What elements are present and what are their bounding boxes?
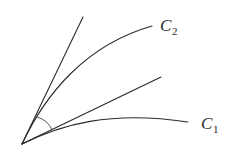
label-c1: C 1	[201, 114, 219, 135]
label-c2-main: C	[160, 16, 172, 35]
curve-c2	[22, 26, 152, 144]
label-c2: C 2	[160, 16, 178, 37]
curve-c1	[22, 118, 188, 144]
label-c2-subscript: 2	[172, 25, 178, 37]
label-c1-subscript: 1	[213, 123, 219, 135]
curves-angle-diagram: C 2 C 1	[0, 0, 236, 160]
angle-arc	[37, 117, 52, 130]
label-c1-main: C	[201, 114, 213, 133]
tangent-line-c1	[22, 77, 161, 144]
